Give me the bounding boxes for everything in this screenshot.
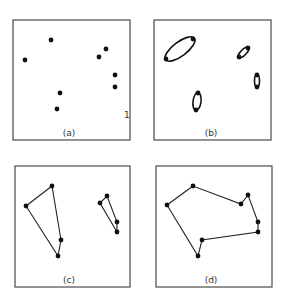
data-point <box>97 55 102 60</box>
data-point <box>196 91 201 96</box>
data-point <box>49 38 54 43</box>
panel-c-polygons <box>24 184 120 259</box>
data-point <box>246 46 251 51</box>
data-point <box>237 55 242 60</box>
data-point <box>191 184 196 189</box>
panel-b-frame <box>154 20 271 140</box>
panel-d-polygons <box>165 184 261 259</box>
data-point <box>50 184 55 189</box>
panel-a: 1 (a) <box>13 20 130 140</box>
panel-b: (b) <box>154 20 271 140</box>
data-point <box>196 254 201 259</box>
data-point <box>59 238 64 243</box>
clustering-diagram: 1 (a) (b) (c) (d) <box>0 0 289 301</box>
panel-d-label: (d) <box>205 275 218 285</box>
data-point <box>55 107 60 112</box>
panel-b-ellipses <box>161 33 259 113</box>
data-point <box>256 220 261 225</box>
cluster-polygon <box>100 196 117 232</box>
data-point <box>194 108 199 113</box>
data-point <box>191 37 196 42</box>
data-point <box>113 73 118 78</box>
data-point <box>98 201 103 206</box>
data-point <box>239 202 244 207</box>
data-point <box>246 193 251 198</box>
panel-b-label: (b) <box>205 128 218 138</box>
cluster-polygon <box>26 186 61 256</box>
data-point <box>105 194 110 199</box>
panel-d-frame <box>156 166 272 287</box>
data-point <box>255 85 260 90</box>
panel-a-stray-mark: 1 <box>124 110 130 120</box>
data-point <box>165 203 170 208</box>
data-point <box>58 91 63 96</box>
panel-a-label: (a) <box>63 128 76 138</box>
panel-c-frame <box>15 166 130 287</box>
panel-a-frame <box>13 20 130 140</box>
panel-c: (c) <box>15 166 130 287</box>
data-point <box>56 254 61 259</box>
data-point <box>200 238 205 243</box>
data-point <box>255 73 260 78</box>
data-point <box>113 85 118 90</box>
data-point <box>256 230 261 235</box>
data-point <box>24 204 29 209</box>
data-point <box>23 58 28 63</box>
data-point <box>115 220 120 225</box>
panel-d: (d) <box>156 166 272 287</box>
data-point <box>115 230 120 235</box>
data-point <box>104 47 109 52</box>
data-point <box>164 57 169 62</box>
panel-a-points <box>23 38 118 112</box>
cluster-polygon <box>167 186 258 256</box>
panel-c-label: (c) <box>63 275 75 285</box>
